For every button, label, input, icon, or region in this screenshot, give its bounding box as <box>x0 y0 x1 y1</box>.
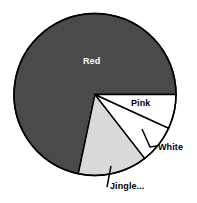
pie-chart-figure: Red Pink White Jingle... <box>0 0 197 203</box>
pie-chart-canvas <box>0 0 197 203</box>
pie-label-white: White <box>158 143 183 152</box>
pie-label-pink: Pink <box>131 99 150 108</box>
pie-label-jingle: Jingle... <box>110 182 144 191</box>
pie-label-red: Red <box>83 57 100 66</box>
